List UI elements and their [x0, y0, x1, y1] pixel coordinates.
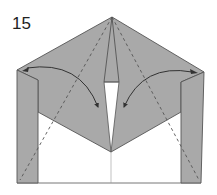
- left-strip: [17, 70, 38, 183]
- origami-diagram: [0, 0, 217, 195]
- right-strip: [181, 72, 204, 183]
